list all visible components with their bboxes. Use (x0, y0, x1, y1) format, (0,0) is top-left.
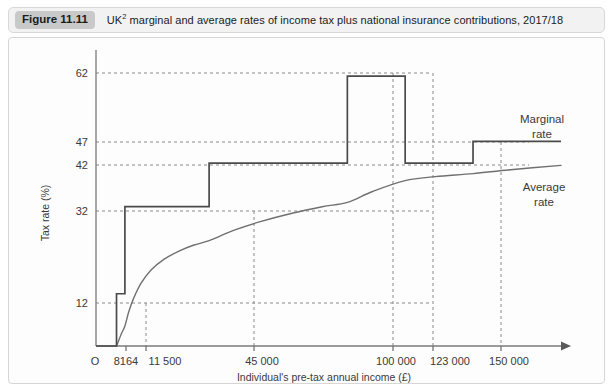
y-tick-label-32: 32 (76, 205, 88, 217)
marginal-rate-label-line2: rate (532, 128, 552, 140)
x-tick-label-123000: 123 000 (430, 355, 470, 367)
y-tick-label-47: 47 (76, 136, 88, 148)
y-axis-title: Tax rate (%) (39, 185, 51, 242)
y-tick-label-62: 62 (76, 67, 88, 79)
y-tick-label-42: 42 (76, 159, 88, 171)
vertical-gridlines (146, 73, 501, 346)
x-tick-label-11500: 11 500 (149, 355, 182, 367)
average-rate-curve (117, 165, 561, 346)
x-axis-ticks (126, 346, 501, 351)
figure-number-badge: Figure 11.11 (15, 11, 95, 30)
average-rate-label-line1: Average (523, 181, 566, 193)
x-origin-label: O (91, 355, 100, 367)
x-axis-arrowhead (561, 342, 571, 351)
figure-container: Figure 11.11 UK2 marginal and average ra… (0, 0, 615, 392)
figure-caption-text: UK2 marginal and average rates of income… (107, 14, 563, 26)
marginal-rate-label-line1: Marginal (520, 113, 564, 125)
marginal-rate-step-line (96, 76, 561, 346)
horizontal-gridlines (96, 73, 529, 303)
caption-part-pre: UK (107, 14, 122, 26)
tax-rate-chart: 62 47 42 32 12 Tax rate (%) O 8164 11 50… (9, 38, 604, 383)
x-tick-label-45000: 45 000 (245, 355, 279, 367)
x-tick-label-100000: 100 000 (376, 355, 416, 367)
x-tick-label-8164: 8164 (114, 355, 138, 367)
x-axis-title: Individual's pre-tax annual income (£) (237, 371, 411, 383)
y-tick-label-12: 12 (76, 297, 88, 309)
caption-part-post: marginal and average rates of income tax… (126, 14, 563, 26)
average-rate-label-line2: rate (534, 196, 554, 208)
figure-caption-bar: Figure 11.11 UK2 marginal and average ra… (8, 7, 605, 33)
x-tick-label-150000: 150 000 (489, 355, 529, 367)
chart-axes (96, 50, 571, 351)
chart-panel: 62 47 42 32 12 Tax rate (%) O 8164 11 50… (8, 37, 605, 384)
